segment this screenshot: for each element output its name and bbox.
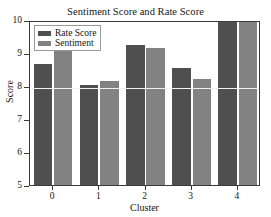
- x-tick-label: 0: [37, 191, 67, 201]
- x-tick-mark: [191, 186, 192, 190]
- y-tick-label: 10: [0, 16, 22, 26]
- bar-rate-score-cluster-4: [218, 22, 236, 185]
- bar-sentiment-cluster-3: [193, 79, 211, 185]
- bar-rate-score-cluster-0: [34, 64, 52, 185]
- bar-rate-score-cluster-2: [126, 45, 144, 185]
- legend-item-sentiment[interactable]: Sentiment: [38, 38, 96, 48]
- y-tick-mark: [24, 186, 29, 187]
- x-tick-mark: [52, 186, 53, 190]
- gridline-y: [30, 88, 259, 89]
- bar-sentiment-cluster-1: [100, 81, 118, 185]
- y-tick-label: 9: [0, 49, 22, 59]
- y-axis-label: Score: [4, 62, 15, 122]
- bar-sentiment-cluster-2: [146, 48, 164, 185]
- x-tick-mark: [98, 186, 99, 190]
- y-tick-label: 8: [0, 82, 22, 92]
- y-tick-label: 7: [0, 115, 22, 125]
- legend-swatch-rate-score: [38, 31, 51, 36]
- x-axis-label: Cluster: [29, 202, 260, 213]
- x-tick-label: 4: [222, 191, 252, 201]
- x-tick-mark: [237, 186, 238, 190]
- bar-rate-score-cluster-3: [172, 68, 190, 185]
- x-tick-label: 3: [176, 191, 206, 201]
- bar-rate-score-cluster-1: [80, 85, 98, 185]
- chart-figure: Sentiment Score and Rate Score Score Clu…: [0, 0, 271, 217]
- y-tick-label: 6: [0, 148, 22, 158]
- x-tick-label: 1: [83, 191, 113, 201]
- y-tick-label: 5: [0, 181, 22, 191]
- x-tick-label: 2: [130, 191, 160, 201]
- legend-item-rate-score[interactable]: Rate Score: [38, 28, 96, 38]
- bar-sentiment-cluster-0: [54, 46, 72, 185]
- legend: Rate Score Sentiment: [34, 25, 101, 51]
- legend-label-rate-score: Rate Score: [55, 28, 96, 38]
- legend-label-sentiment: Sentiment: [55, 38, 94, 48]
- chart-title: Sentiment Score and Rate Score: [0, 6, 271, 17]
- legend-swatch-sentiment: [38, 41, 51, 46]
- x-tick-mark: [145, 186, 146, 190]
- bar-sentiment-cluster-4: [239, 21, 257, 185]
